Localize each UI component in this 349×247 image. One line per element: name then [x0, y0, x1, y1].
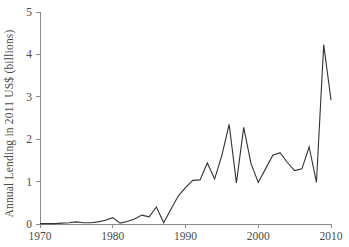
- data-series: [40, 45, 331, 224]
- y-tick-label: 4: [12, 48, 32, 60]
- tick-marks: [36, 12, 331, 228]
- y-tick-label: 1: [12, 176, 32, 188]
- x-tick-label: 2000: [247, 230, 270, 242]
- series-line: [40, 45, 331, 224]
- y-tick-label: 3: [12, 91, 32, 103]
- axes: [40, 12, 331, 224]
- x-tick-label: 2010: [320, 230, 343, 242]
- y-tick-label: 0: [12, 218, 32, 230]
- y-tick-label: 5: [12, 6, 32, 18]
- line-chart: Annual Lending in 2011 US$ (billions) 01…: [0, 0, 349, 247]
- y-tick-label: 2: [12, 133, 32, 145]
- plot-area: [0, 0, 349, 247]
- x-tick-label: 1990: [174, 230, 197, 242]
- x-tick-label: 1970: [29, 230, 52, 242]
- x-tick-label: 1980: [101, 230, 124, 242]
